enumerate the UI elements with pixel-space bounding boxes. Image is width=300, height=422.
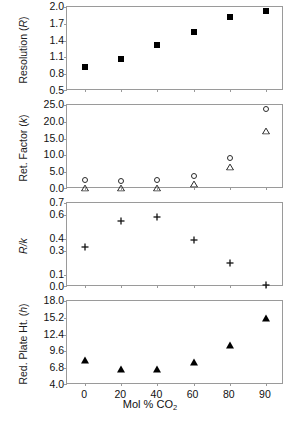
data-point-filled-square — [191, 29, 197, 35]
data-point-plus — [153, 207, 161, 215]
panel-retention-factor: Ret. Factor (k) 0.05.010.015.020.025.0 — [0, 104, 300, 196]
y-axis-tick-label: 0.1 — [49, 269, 64, 280]
ylabel-text-plateheight: Red. Plate Ht. — [17, 319, 29, 384]
x-axis-tick-mark — [157, 383, 158, 386]
data-point-filled-triangle — [117, 366, 125, 373]
x-axis-tick-mark — [121, 383, 122, 386]
y-axis-tick-label: 0.8 — [49, 68, 64, 79]
y-axis-tick-label: 18.0 — [44, 295, 64, 306]
y-axis-tick-label: 15.0 — [44, 132, 64, 143]
y-axis-tick-mark — [64, 57, 67, 58]
data-point-open-triangle — [117, 178, 125, 185]
y-axis-tick-label: 10.0 — [44, 149, 64, 160]
x-axis-tick-mark — [266, 187, 267, 190]
y-axis-tick-label: 2.0 — [49, 1, 64, 12]
data-point-open-triangle — [226, 157, 234, 164]
data-point-open-triangle — [190, 173, 198, 180]
data-point-plus — [117, 211, 125, 219]
y-axis-tick-mark — [64, 188, 67, 189]
y-axis-tick-mark — [64, 368, 67, 369]
y-axis-tick-label: 1.7 — [49, 18, 64, 29]
y-axis-tick-label: 15.2 — [44, 312, 64, 323]
x-axis-tick-mark — [230, 187, 231, 190]
x-axis-label: Mol % CO2 — [0, 398, 300, 410]
figure-multipanel-scatter: Resolution (R) 0.50.81.11.41.72.0 Ret. F… — [0, 0, 300, 422]
panel-resolution-plot-area — [66, 6, 283, 90]
y-axis-tick-mark — [64, 24, 67, 25]
x-axis-label-subscript: 2 — [173, 403, 177, 412]
data-point-filled-square — [118, 56, 124, 62]
data-point-filled-triangle — [190, 359, 198, 366]
y-axis-tick-mark — [64, 203, 67, 204]
x-axis-tick-mark — [194, 187, 195, 190]
y-axis-tick-label: 5.0 — [49, 166, 64, 177]
x-axis-tick-mark — [157, 89, 158, 92]
y-axis-tick-mark — [64, 172, 67, 173]
panel-resolution-per-k-ytick-labels: 0.00.10.30.40.60.7 — [30, 202, 64, 294]
ylabel-symbol-resolution: R — [17, 20, 29, 28]
x-axis-tick-mark — [194, 383, 195, 386]
y-axis-tick-mark — [64, 139, 67, 140]
y-axis-tick-label: 0.0 — [49, 281, 64, 292]
y-axis-tick-mark — [64, 105, 67, 106]
x-axis-tick-mark — [121, 89, 122, 92]
x-axis-tick-mark — [230, 383, 231, 386]
y-axis-tick-label: 9.6 — [49, 345, 64, 356]
y-axis-tick-label: 1.1 — [49, 51, 64, 62]
panel-reduced-plate-height: Red. Plate Ht. (h) 4.06.89.612.415.218.0… — [0, 300, 300, 392]
x-axis-tick-mark — [230, 89, 231, 92]
data-point-filled-square — [227, 14, 233, 20]
panel-resolution-per-k: R/k 0.00.10.30.40.60.7 — [0, 202, 300, 294]
data-point-plus — [262, 275, 270, 283]
x-axis-tick-mark — [266, 383, 267, 386]
data-point-filled-triangle — [153, 366, 161, 373]
y-axis-tick-mark — [64, 384, 67, 385]
y-axis-tick-mark — [64, 90, 67, 91]
x-axis-tick-mark — [194, 285, 195, 288]
y-axis-tick-label: 6.8 — [49, 362, 64, 373]
panel-retention-factor-plot-area — [66, 104, 283, 188]
data-point-filled-square — [263, 8, 269, 14]
y-axis-tick-mark — [64, 335, 67, 336]
x-axis-label-text: Mol % CO — [123, 398, 173, 410]
y-axis-tick-label: 0.7 — [49, 197, 64, 208]
panel-resolution-ytick-labels: 0.50.81.11.41.72.0 — [30, 6, 64, 98]
x-axis-tick-mark — [194, 89, 195, 92]
x-axis-tick-mark — [230, 285, 231, 288]
panel-reduced-plate-height-ytick-labels: 4.06.89.612.415.218.0 — [30, 300, 64, 392]
y-axis-tick-mark — [64, 301, 67, 302]
data-point-open-triangle — [153, 177, 161, 184]
data-point-open-triangle — [81, 177, 89, 184]
x-axis-tick-mark — [157, 285, 158, 288]
panel-reduced-plate-height-plot-area — [66, 300, 283, 384]
ylabel-symbol-retfactor: k — [17, 118, 29, 123]
data-point-plus — [226, 253, 234, 261]
y-axis-tick-label: 12.4 — [44, 328, 64, 339]
x-axis-tick-mark — [85, 285, 86, 288]
y-axis-tick-mark — [64, 215, 67, 216]
data-point-filled-square — [154, 42, 160, 48]
y-axis-tick-mark — [64, 239, 67, 240]
x-axis-tick-mark — [85, 89, 86, 92]
y-axis-tick-label: 1.4 — [49, 34, 64, 45]
y-axis-tick-mark — [64, 155, 67, 156]
ylabel-symbol-plateheight: h — [17, 307, 29, 313]
data-point-plus — [81, 237, 89, 245]
y-axis-tick-mark — [64, 275, 67, 276]
y-axis-tick-mark — [64, 41, 67, 42]
y-axis-tick-label: 25.0 — [44, 99, 64, 110]
panel-resolution-per-k-plot-area — [66, 202, 283, 286]
y-axis-tick-mark — [64, 74, 67, 75]
x-axis-tick-mark — [266, 89, 267, 92]
x-axis-tick-mark — [121, 285, 122, 288]
y-axis-tick-mark — [64, 122, 67, 123]
y-axis-tick-mark — [64, 286, 67, 287]
ylabel-text-retfactor: Ret. Factor — [17, 130, 29, 182]
y-axis-tick-label: 0.4 — [49, 233, 64, 244]
data-point-filled-square — [82, 64, 88, 70]
panel-retention-factor-ytick-labels: 0.05.010.015.020.025.0 — [30, 104, 64, 196]
y-axis-tick-mark — [64, 251, 67, 252]
y-axis-tick-label: 4.0 — [49, 379, 64, 390]
y-axis-tick-label: 0.6 — [49, 209, 64, 220]
y-axis-tick-label: 0.0 — [49, 183, 64, 194]
